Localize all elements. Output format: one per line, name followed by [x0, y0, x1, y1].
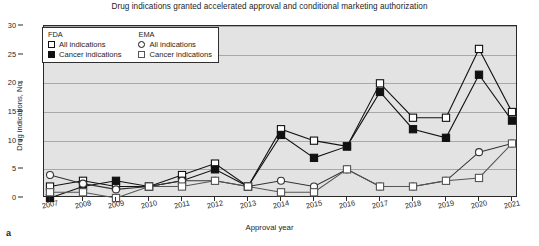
data-point	[476, 149, 483, 156]
x-tick-mark	[313, 197, 314, 201]
legend-group-title: EMA	[138, 30, 211, 39]
y-tick-label: 0	[12, 193, 16, 202]
legend-item[interactable]: Cancer indications	[138, 50, 211, 60]
data-point	[475, 45, 482, 52]
legend-item-label: Cancer indications	[149, 50, 211, 60]
x-tick-mark	[511, 197, 512, 201]
data-point	[442, 134, 449, 141]
legend-item[interactable]: All indications	[48, 40, 121, 50]
y-axis-title: Drug indications, No.	[15, 56, 24, 176]
data-point	[376, 183, 383, 190]
x-tick-mark	[379, 197, 380, 201]
data-point	[442, 177, 449, 184]
data-point	[145, 183, 152, 190]
x-tick-mark	[280, 197, 281, 201]
data-point	[79, 189, 86, 196]
chart-legend: FDAAll indicationsCancer indicationsEMAA…	[42, 27, 219, 63]
square-light-icon	[138, 51, 145, 58]
y-tick-mark	[18, 53, 23, 54]
data-point	[409, 126, 416, 133]
data-point	[475, 71, 482, 78]
data-point	[277, 131, 284, 138]
x-tick-mark	[412, 197, 413, 201]
x-tick-mark	[49, 197, 50, 201]
x-tick-mark	[82, 197, 83, 201]
x-tick-mark	[115, 197, 116, 201]
x-tick-mark	[445, 197, 446, 201]
x-tick-mark	[181, 197, 182, 201]
panel-label: a	[6, 228, 11, 238]
x-tick-mark	[478, 197, 479, 201]
legend-item-label: All indications	[59, 40, 105, 50]
legend-item[interactable]: All indications	[138, 40, 211, 50]
data-point	[211, 177, 218, 184]
data-point	[178, 183, 185, 190]
data-point	[343, 143, 350, 150]
data-point	[277, 189, 284, 196]
data-point	[112, 177, 119, 184]
x-tick-mark	[247, 197, 248, 201]
circle-open-icon	[138, 41, 145, 48]
chart-figure: Drug indications granted accelerated app…	[0, 0, 539, 246]
legend-group-title: FDA	[48, 30, 121, 39]
data-point	[310, 189, 317, 196]
legend-item-label: All indications	[149, 40, 195, 50]
data-point	[46, 189, 53, 196]
data-point	[211, 166, 218, 173]
legend-group-ema: EMAAll indicationsCancer indications	[138, 30, 211, 59]
x-tick-mark	[346, 197, 347, 201]
y-tick-mark	[18, 25, 23, 26]
data-point	[409, 114, 416, 121]
data-point	[409, 183, 416, 190]
data-point	[343, 166, 350, 173]
data-point	[278, 177, 285, 184]
data-point	[376, 88, 383, 95]
legend-item-label: Cancer indications	[59, 50, 121, 60]
x-tick-mark	[148, 197, 149, 201]
data-point	[80, 180, 87, 187]
data-point	[310, 137, 317, 144]
legend-item[interactable]: Cancer indications	[48, 50, 121, 60]
square-filled-icon	[48, 51, 55, 58]
data-point	[244, 183, 251, 190]
data-point	[310, 154, 317, 161]
data-point	[508, 117, 515, 124]
data-point	[508, 108, 515, 115]
y-tick-label: 30	[8, 21, 16, 30]
data-point	[508, 140, 515, 147]
data-point	[113, 186, 120, 193]
chart-title: Drug indications granted accelerated app…	[0, 2, 539, 11]
x-tick-mark	[214, 197, 215, 201]
data-point	[475, 174, 482, 181]
data-point	[442, 114, 449, 121]
data-point	[376, 80, 383, 87]
y-tick-mark	[18, 197, 23, 198]
square-open-icon	[48, 41, 55, 48]
legend-group-fda: FDAAll indicationsCancer indications	[48, 30, 121, 59]
x-axis-title: Approval year	[0, 223, 539, 232]
data-point	[47, 172, 54, 179]
